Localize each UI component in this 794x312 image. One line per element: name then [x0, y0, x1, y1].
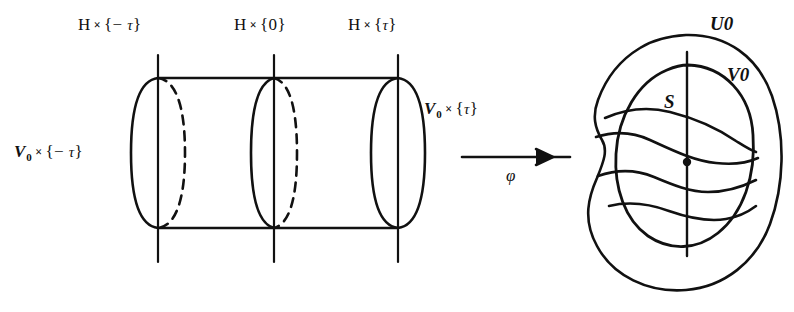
left-cap-solid-half	[131, 78, 158, 228]
label-h-base: H	[234, 15, 247, 34]
brace-close: }	[133, 15, 142, 34]
label-v0-times-tau: V0×{τ}	[424, 100, 478, 120]
label-phi-map: φ	[506, 166, 515, 186]
times-symbol: ×	[442, 102, 455, 116]
brace-open: {	[374, 15, 383, 34]
foliation-curve-1	[605, 109, 756, 152]
brace-close: }	[277, 15, 286, 34]
label-v-base: V	[424, 99, 436, 118]
foliation-curve-3	[598, 171, 756, 192]
minus-sign: −	[113, 15, 123, 34]
figure-drawing-canvas	[0, 0, 794, 312]
subscript-zero: 0	[740, 64, 750, 85]
foliation-curve-2	[596, 133, 758, 164]
math-figure-cylinder-to-neighbourhood: H×{− τ} H×{0} H×{τ} V0×{− τ} V0×{τ} φ U0…	[0, 0, 794, 312]
left-cap-dashed-half	[158, 78, 185, 228]
minus-sign: −	[54, 142, 64, 161]
label-u-base: U	[710, 13, 724, 34]
label-v-base: V	[14, 142, 26, 161]
label-h-base: H	[78, 15, 91, 34]
subscript-zero: 0	[724, 13, 734, 34]
times-symbol: ×	[247, 18, 260, 32]
brace-close: }	[470, 99, 479, 118]
times-symbol: ×	[361, 18, 374, 32]
label-h-times-minus-tau: H×{− τ}	[78, 16, 142, 33]
brace-open: {	[104, 15, 113, 34]
brace-close: }	[388, 15, 397, 34]
brace-close: }	[74, 142, 83, 161]
blob-group	[588, 35, 781, 290]
mid-cap-dashed-half	[274, 78, 297, 228]
label-v0-inner-region: V0	[727, 65, 749, 84]
times-symbol: ×	[91, 18, 104, 32]
label-h-times-zero: H×{0}	[234, 16, 286, 33]
label-s-surface: S	[664, 92, 675, 111]
mid-cap-solid-half	[251, 78, 274, 228]
cylinder-group	[131, 55, 425, 262]
label-u0-outer-region: U0	[710, 14, 733, 33]
brace-open: {	[260, 15, 269, 34]
label-v-base: V	[727, 64, 740, 85]
map-arrow-head	[536, 149, 553, 165]
blob-base-point	[683, 158, 691, 166]
times-symbol: ×	[32, 145, 45, 159]
label-h-base: H	[348, 15, 361, 34]
label-v0-times-minus-tau: V0×{− τ}	[14, 143, 83, 163]
brace-open: {	[45, 142, 54, 161]
label-h-times-tau: H×{τ}	[348, 16, 397, 33]
map-arrow-group	[462, 149, 570, 165]
brace-open: {	[455, 99, 464, 118]
